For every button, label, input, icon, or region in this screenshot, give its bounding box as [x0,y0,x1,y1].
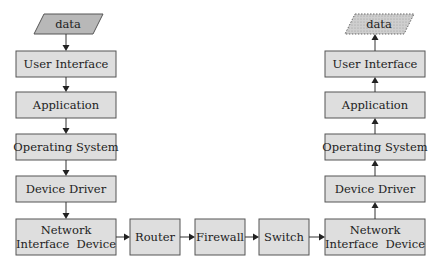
sender-operating-system-label: Operating System [13,140,118,154]
switch-label: Switch [264,230,304,244]
sender-nic-label-line1: Network [41,223,93,237]
sender-user-interface-label: User Interface [24,57,109,71]
sender-data-label: data [55,17,81,31]
arrow-receiver-ui-to-data [372,34,379,51]
arrow-receiver-os-to-app [372,118,379,134]
receiver-data-label: data [366,17,392,31]
arrow-sender-app-to-os [63,118,70,134]
sender-device-driver-label: Device Driver [26,182,107,196]
receiver-device-driver-label: Device Driver [335,182,416,196]
firewall-label: Firewall [196,230,244,244]
sender-application-label: Application [32,98,100,112]
receiver-operating-system-label: Operating System [322,140,427,154]
arrow-receiver-nic-to-driver [372,202,379,219]
arrow-sender-os-to-driver [63,160,70,176]
arrow-firewall-to-switch [245,234,259,241]
arrow-sender-driver-to-nic [63,202,70,219]
arrow-router-to-firewall [180,234,195,241]
sender-nic-label-line2: Interface Device [16,237,116,251]
arrow-switch-to-nic [309,234,325,241]
arrow-receiver-app-to-ui [372,77,379,92]
arrow-sender-data-to-ui [63,34,70,51]
arrow-receiver-driver-to-os [372,160,379,176]
receiver-user-interface-label: User Interface [333,57,418,71]
network-path: Router Firewall Switch [130,219,309,255]
receiver-nic-label-line1: Network [350,223,402,237]
receiver-application-label: Application [341,98,409,112]
receiver-nic-label-line2: Interface Device [325,237,425,251]
network-stack-diagram: data User Interface Application Operatin… [0,0,441,266]
arrow-nic-to-router [116,234,130,241]
arrow-sender-ui-to-app [63,77,70,92]
router-label: Router [135,230,175,244]
